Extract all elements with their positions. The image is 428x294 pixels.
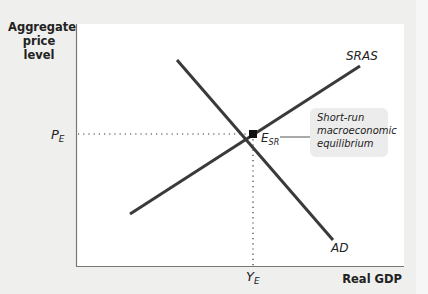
ye-tick-label: YE <box>246 269 260 286</box>
callout-line1: Short-run <box>317 111 388 124</box>
equilibrium-callout: Short-run macroeconomic equilibrium <box>310 108 388 157</box>
sras-label: SRAS <box>346 49 378 63</box>
esr-label: ESR <box>261 131 279 147</box>
ad-label: AD <box>330 241 348 255</box>
callout-line3: equilibrium <box>317 137 388 150</box>
pe-tick-label: PE <box>51 127 65 144</box>
equilibrium-point <box>249 130 257 138</box>
callout-line2: macroeconomic <box>317 124 388 137</box>
